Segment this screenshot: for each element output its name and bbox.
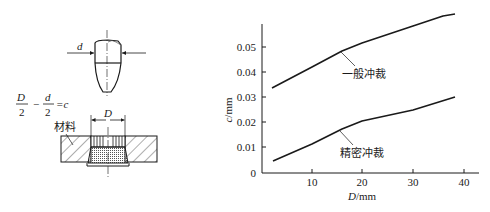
figure-canvas: d D 2 − d 2 =c D 材料 (0, 0, 490, 212)
formula-num2: d (45, 91, 51, 103)
material-right (125, 136, 157, 162)
label-fine-blanking: 精密冲裁 (340, 146, 384, 160)
material-label: 材料 (54, 120, 76, 134)
y-tick-0.03: 0.03 (237, 91, 257, 103)
formula-num1: D (16, 91, 25, 103)
x-tick-40: 40 (459, 176, 471, 188)
formula-den1: 2 (19, 106, 25, 118)
punch-diagram: d (67, 30, 146, 96)
x-tick-20: 20 (357, 176, 369, 188)
y-tick-0.01: 0.01 (237, 141, 256, 153)
y-tick-0: 0 (251, 167, 257, 179)
formula-den2: 2 (45, 106, 51, 118)
formula-eq: =c (56, 98, 68, 110)
d-label: d (77, 40, 83, 52)
x-tick-30: 30 (408, 176, 420, 188)
formula-minus: − (33, 98, 39, 110)
chart: 0 0.01 0.02 0.03 0.04 0.05 10 20 30 40 D… (222, 14, 479, 202)
clearance-formula: D 2 − d 2 =c (16, 91, 68, 118)
x-axis-label: D/mm (347, 190, 377, 202)
D-label: D (103, 107, 112, 119)
leader-general (341, 52, 355, 66)
y-tick-0.05: 0.05 (237, 41, 257, 53)
material-left (61, 136, 91, 162)
y-tick-0.04: 0.04 (237, 66, 257, 78)
punch-outline (95, 40, 121, 92)
label-general-blanking: 一般冲裁 (342, 67, 386, 81)
leader-fine (340, 131, 353, 145)
y-tick-0.02: 0.02 (237, 116, 256, 128)
y-axis-label: c/mm (222, 97, 234, 123)
material-die-diagram: D 材料 (54, 107, 157, 177)
x-tick-10: 10 (307, 176, 319, 188)
